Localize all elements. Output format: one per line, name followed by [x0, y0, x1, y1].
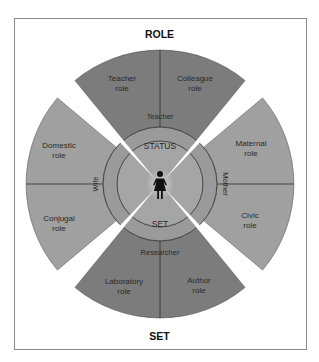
role-maternal-line1: Maternal — [235, 139, 266, 148]
role-maternal-line2: role — [244, 149, 258, 158]
status-mother: Mother — [221, 172, 230, 196]
role-conjugal-line2: role — [52, 224, 66, 233]
role-teacher-line2: role — [115, 84, 129, 93]
role-laboratory-line2: role — [117, 287, 131, 296]
role-domestic-line2: role — [52, 151, 66, 160]
role-colleague-line1: Colleague — [177, 74, 214, 83]
role-author-line1: Author — [187, 276, 211, 285]
role-colleague-line2: role — [188, 84, 202, 93]
role-author-line2: role — [192, 286, 206, 295]
role-teacher-line1: Teacher — [108, 74, 137, 83]
role-conjugal-line1: Conjugal — [43, 214, 75, 223]
role-domestic-line1: Domestic — [42, 141, 75, 150]
status-label: STATUS — [144, 141, 177, 151]
set-label: SET — [152, 219, 169, 229]
role-laboratory-line1: Laboratory — [105, 277, 143, 286]
role-civic-line2: role — [243, 221, 257, 230]
status-researcher: Researcher — [141, 248, 180, 257]
status-wife: Wife — [91, 177, 100, 192]
role-civic-line1: Civic — [241, 211, 258, 220]
role-set-diagram: STATUS SET Teacher Researcher Mother Wif… — [0, 0, 319, 362]
status-teacher: Teacher — [147, 112, 174, 121]
